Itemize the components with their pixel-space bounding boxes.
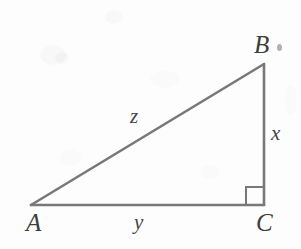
right-angle-marker-icon	[246, 187, 264, 205]
side-label-hypotenuse-z: z	[130, 106, 138, 127]
vertex-label-c: C	[256, 210, 273, 235]
side-label-horizontal-y: y	[134, 212, 143, 233]
vertex-label-a: A	[26, 210, 41, 235]
vertex-label-b: B	[254, 32, 269, 57]
geometry-figure: A B C z x y	[0, 0, 301, 249]
triangle-side-hypotenuse-z	[31, 64, 264, 205]
side-label-vertical-x: x	[271, 123, 280, 144]
ink-smudge-artifact	[277, 44, 282, 51]
